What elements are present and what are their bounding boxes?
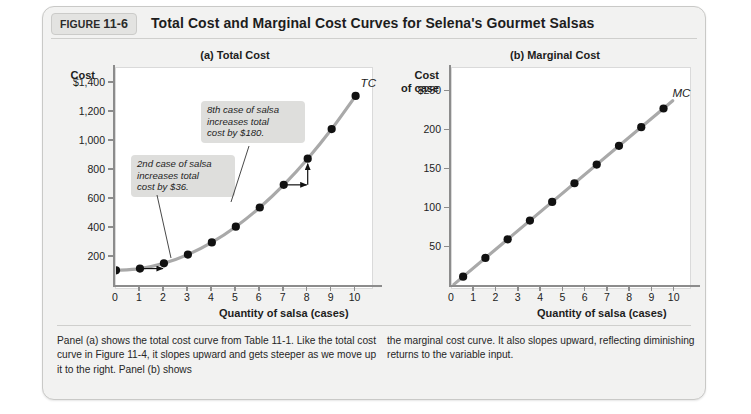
- data-point: [526, 217, 534, 225]
- data-point: [256, 203, 264, 211]
- x-tick-label: 8: [304, 291, 310, 303]
- marginal-cost-curve-group: [454, 101, 673, 285]
- x-tick-mark: [282, 285, 284, 291]
- x-tick-label: 6: [256, 291, 262, 303]
- x-tick-mark: [495, 285, 497, 291]
- y-tick-mark: [444, 129, 451, 131]
- caption-divider: [57, 325, 691, 326]
- data-point: [615, 142, 623, 150]
- panel-b-chart-svg: [452, 68, 690, 288]
- y-axis-line: [449, 65, 451, 287]
- y-tick-label: 150: [389, 162, 441, 174]
- x-tick-mark: [258, 285, 260, 291]
- x-tick-mark: [138, 285, 140, 291]
- data-point: [304, 155, 312, 163]
- y-tick-label: 200: [53, 250, 105, 262]
- y-tick-mark: [108, 168, 115, 170]
- y-tick-label: 800: [53, 163, 105, 175]
- x-tick-mark: [606, 285, 608, 291]
- x-tick-label: 2: [160, 291, 166, 303]
- x-axis-line: [450, 285, 700, 287]
- x-tick-mark: [354, 285, 356, 291]
- x-tick-mark: [162, 285, 164, 291]
- panel-b-title: (b) Marginal Cost: [389, 49, 699, 61]
- data-point: [116, 266, 120, 274]
- panel-marginal-cost: (b) Marginal Cost Cost of case 501001502…: [389, 45, 699, 317]
- x-tick-mark: [210, 285, 212, 291]
- data-point: [659, 104, 667, 112]
- x-tick-mark: [651, 285, 653, 291]
- y-tick-label: 600: [53, 192, 105, 204]
- x-tick-label: 3: [184, 291, 190, 303]
- x-tick-label: 3: [515, 291, 521, 303]
- x-tick-label: 9: [648, 291, 654, 303]
- data-point: [160, 259, 168, 267]
- y-tick-label: 50: [389, 240, 441, 252]
- caption-column-right: the marginal cost curve. It also slopes …: [387, 334, 697, 363]
- data-point: [570, 179, 578, 187]
- y-tick-label: 400: [53, 221, 105, 233]
- x-tick-mark: [234, 285, 236, 291]
- figure-card: FIGURE 11-6 Total Cost and Marginal Cost…: [42, 6, 706, 400]
- y-tick-label: 1,000: [53, 134, 105, 146]
- mc-curve-label: MC: [673, 87, 691, 99]
- callout-8th-case: 8th case of salsa increases total cost b…: [201, 101, 305, 143]
- data-point: [504, 235, 512, 243]
- x-tick-mark: [584, 285, 586, 291]
- caption-column-left: Panel (a) shows the total cost curve fro…: [57, 334, 379, 377]
- x-tick-label: 4: [208, 291, 214, 303]
- y-tick-label: 1,200: [53, 105, 105, 117]
- tc-curve-label: TC: [361, 77, 376, 89]
- data-point: [593, 160, 601, 168]
- figure-number-label: FIGURE 11-6: [60, 17, 128, 31]
- x-tick-label: 7: [280, 291, 286, 303]
- data-point: [184, 251, 192, 259]
- x-tick-label: 2: [493, 291, 499, 303]
- data-point: [352, 92, 360, 100]
- panel-a-x-axis-caption: Quantity of salsa (cases): [219, 307, 349, 319]
- x-tick-label: 10: [349, 291, 361, 303]
- data-point: [637, 123, 645, 131]
- data-point: [548, 198, 556, 206]
- x-tick-label: 9: [328, 291, 334, 303]
- x-tick-label: 0: [112, 291, 118, 303]
- data-point: [232, 223, 240, 231]
- x-tick-label: 6: [582, 291, 588, 303]
- y-tick-label: 100: [389, 201, 441, 213]
- y-tick-mark: [108, 255, 115, 257]
- x-tick-label: 0: [448, 291, 454, 303]
- data-point: [328, 125, 336, 133]
- x-tick-label: 8: [626, 291, 632, 303]
- x-tick-label: 4: [537, 291, 543, 303]
- x-tick-label: 1: [136, 291, 142, 303]
- x-tick-mark: [472, 285, 474, 291]
- x-tick-label: 10: [668, 291, 680, 303]
- panel-b-x-axis-caption: Quantity of salsa (cases): [537, 307, 667, 319]
- y-tick-label: $250: [389, 84, 441, 96]
- header-divider: [51, 38, 697, 39]
- y-tick-label: 200: [389, 123, 441, 135]
- figure-title: Total Cost and Marginal Cost Curves for …: [151, 15, 594, 31]
- y-tick-mark: [444, 207, 451, 209]
- figure-tab-prefix: FIGURE: [60, 18, 100, 30]
- x-tick-label: 5: [232, 291, 238, 303]
- x-tick-label: 7: [604, 291, 610, 303]
- x-tick-mark: [539, 285, 541, 291]
- figure-tab-number: 11-6: [103, 17, 128, 31]
- x-tick-label: 5: [559, 291, 565, 303]
- y-tick-mark: [108, 81, 115, 83]
- y-tick-mark: [444, 168, 451, 170]
- x-tick-mark: [186, 285, 188, 291]
- y-tick-mark: [108, 226, 115, 228]
- x-tick-mark: [306, 285, 308, 291]
- panel-total-cost: (a) Total Cost Cost 2004006008001,0001,2…: [53, 45, 383, 317]
- data-point: [208, 238, 216, 246]
- y-tick-label: $1,400: [53, 76, 105, 88]
- data-point: [481, 254, 489, 262]
- data-point: [459, 273, 467, 281]
- panel-a-title: (a) Total Cost: [53, 49, 383, 61]
- figure-number-tab: FIGURE 11-6: [51, 13, 137, 35]
- x-tick-mark: [673, 285, 675, 291]
- y-tick-mark: [108, 139, 115, 141]
- panel-b-plot-area: [451, 67, 691, 289]
